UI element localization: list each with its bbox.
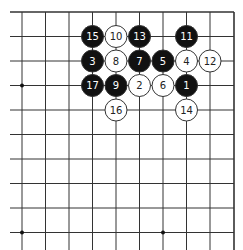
star-point: [20, 84, 24, 88]
move-number: 14: [180, 105, 193, 116]
black-stone[interactable]: 7: [129, 50, 151, 72]
white-stone[interactable]: 16: [105, 99, 127, 121]
move-number: 17: [86, 80, 99, 91]
black-stone[interactable]: 13: [129, 26, 151, 48]
move-number: 1: [183, 80, 189, 91]
move-number: 9: [113, 80, 119, 91]
go-board: 1234567891011121314151617: [0, 0, 243, 250]
move-number: 4: [183, 56, 189, 67]
star-point: [20, 231, 24, 235]
black-stone[interactable]: 5: [152, 50, 174, 72]
white-stone[interactable]: 14: [176, 99, 198, 121]
move-number: 8: [113, 56, 119, 67]
black-stone[interactable]: 17: [82, 75, 104, 97]
white-stone[interactable]: 10: [105, 26, 127, 48]
white-stone[interactable]: 12: [199, 50, 221, 72]
black-stone[interactable]: 3: [82, 50, 104, 72]
stones: 1234567891011121314151617: [82, 26, 222, 122]
move-number: 11: [180, 31, 193, 42]
board-grid: [10, 12, 234, 250]
move-number: 16: [110, 105, 123, 116]
move-number: 7: [136, 56, 142, 67]
move-number: 13: [133, 31, 146, 42]
white-stone[interactable]: 6: [152, 75, 174, 97]
white-stone[interactable]: 2: [129, 75, 151, 97]
white-stone[interactable]: 4: [176, 50, 198, 72]
star-point: [161, 231, 165, 235]
black-stone[interactable]: 15: [82, 26, 104, 48]
white-stone[interactable]: 8: [105, 50, 127, 72]
move-number: 2: [136, 80, 142, 91]
black-stone[interactable]: 11: [176, 26, 198, 48]
move-number: 5: [160, 56, 166, 67]
black-stone[interactable]: 9: [105, 75, 127, 97]
move-number: 12: [204, 56, 217, 67]
move-number: 10: [110, 31, 123, 42]
move-number: 6: [160, 80, 166, 91]
move-number: 3: [89, 56, 95, 67]
black-stone[interactable]: 1: [176, 75, 198, 97]
move-number: 15: [86, 31, 99, 42]
